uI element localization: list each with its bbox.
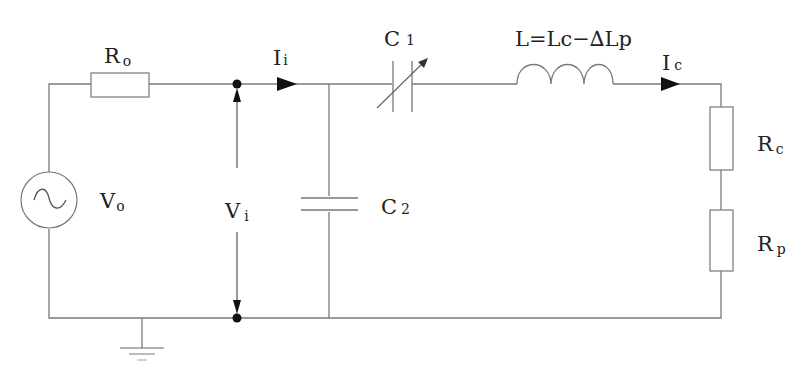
- label-inductor: L=Lc−∆Lp: [515, 27, 632, 51]
- circuit-diagram: Ro Vo Ii Vi C1 C2 L=Lc−∆Lp Ic Rc Rp: [0, 0, 808, 377]
- node-bottom: [233, 314, 242, 323]
- label-c2: C2: [381, 195, 410, 219]
- resistor-rc: [710, 107, 733, 170]
- label-ro: Ro: [104, 44, 131, 69]
- ac-source-icon: [21, 172, 77, 228]
- label-ii: Ii: [273, 46, 288, 70]
- label-rc: Rc: [757, 132, 784, 157]
- resistor-ro: [91, 73, 149, 97]
- variable-capacitor-c1: [377, 58, 428, 112]
- ii-arrow-icon: [277, 77, 297, 91]
- node-top: [233, 80, 242, 89]
- resistor-rp: [710, 210, 733, 271]
- ground-icon: [120, 348, 164, 360]
- capacitor-c2: [300, 196, 358, 212]
- ic-arrow-icon: [661, 77, 680, 91]
- label-c1: C1: [384, 27, 415, 51]
- inductor-l: [517, 65, 613, 85]
- label-rp: Rp: [757, 232, 786, 257]
- label-ic: Ic: [662, 51, 682, 75]
- label-vi: Vi: [224, 199, 249, 224]
- label-vo: Vo: [99, 189, 125, 214]
